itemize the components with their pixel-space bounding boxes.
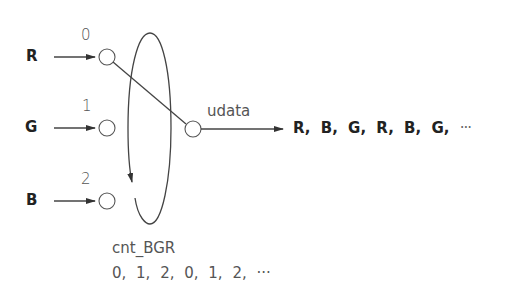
input-node-1 <box>99 120 115 136</box>
output-ellipsis: ··· <box>460 119 471 137</box>
index-label-2: 2 <box>81 172 91 187</box>
output-sequence-values: R, B, G, R, B, G, <box>293 119 449 137</box>
output-node-udata <box>185 121 201 137</box>
input-node-2 <box>99 193 115 209</box>
diagram-canvas: R G B 0 1 2 udata R, B, G, R, B, G, ··· … <box>0 0 529 306</box>
counter-label: cnt_BGR <box>112 241 175 256</box>
selector-switch-line <box>113 62 186 124</box>
diagram-graphics <box>0 0 529 306</box>
input-node-0 <box>99 49 115 65</box>
input-label-b: B <box>26 193 37 208</box>
index-label-1: 1 <box>82 99 92 114</box>
output-sequence: R, B, G, R, B, G, ··· <box>293 121 471 136</box>
counter-sequence: 0, 1, 2, 0, 1, 2, ··· <box>112 266 271 281</box>
udata-label: udata <box>207 104 250 119</box>
input-label-r: R <box>26 49 38 64</box>
counter-loop-arc <box>128 33 171 224</box>
input-label-g: G <box>25 120 37 135</box>
index-label-0: 0 <box>81 28 91 43</box>
